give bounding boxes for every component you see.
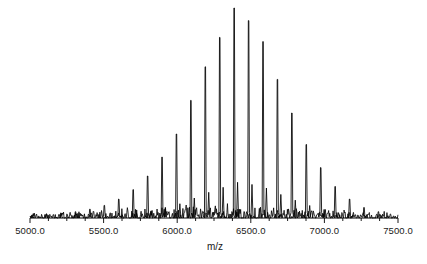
spectrum-plot [0,0,427,264]
x-axis-tick-label: 6000.0 [162,225,192,236]
mass-spectrum-figure: 5000.05500.06000.06500.07000.07500.0 m/z [0,0,427,264]
x-axis-tick-label: 5000.0 [15,225,45,236]
noise-baseline-trace [30,204,398,218]
x-axis-tick-label: 6500.0 [236,225,266,236]
x-axis-ticks [30,218,398,223]
x-axis-tick-label: 5500.0 [89,225,119,236]
peak-trace [30,8,380,218]
x-axis-title: m/z [207,241,223,252]
x-axis-tick-label: 7500.0 [383,225,413,236]
x-axis-tick-label: 7000.0 [310,225,340,236]
